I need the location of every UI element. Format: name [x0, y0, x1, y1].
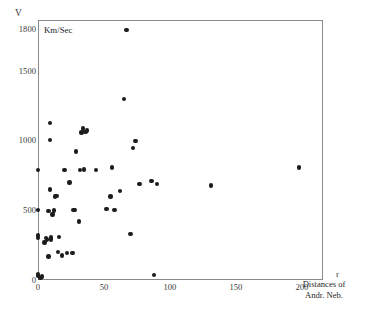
- data-point: [48, 138, 52, 142]
- x-axis-caption-line1: Distances of: [303, 279, 346, 289]
- x-tick-label: 0: [36, 283, 40, 292]
- data-point: [131, 146, 135, 150]
- data-point: [74, 149, 78, 153]
- data-point: [40, 274, 44, 278]
- data-point: [94, 168, 98, 172]
- data-point: [133, 139, 137, 143]
- data-point: [52, 208, 56, 212]
- data-point: [118, 189, 122, 193]
- data-point: [65, 251, 69, 255]
- data-point: [77, 219, 81, 223]
- scatter-chart-figure: V Km/Sec 0500100015001800 050100150200 r…: [0, 0, 365, 309]
- data-point: [73, 208, 77, 212]
- data-point: [209, 183, 213, 187]
- data-point: [36, 168, 40, 172]
- x-axis-caption-line2: Andr. Neb.: [283, 290, 365, 301]
- data-point: [85, 128, 89, 132]
- data-point: [48, 121, 52, 125]
- data-point: [149, 179, 153, 183]
- data-point: [128, 232, 132, 236]
- data-point: [36, 233, 40, 237]
- x-axis-caption: Distances of Andr. Neb.: [283, 279, 365, 300]
- x-tick-label: 150: [229, 283, 242, 292]
- data-point: [124, 28, 128, 32]
- x-axis-symbol-label: r: [336, 269, 339, 279]
- data-point: [54, 194, 58, 198]
- data-point: [36, 208, 40, 212]
- data-point: [48, 187, 52, 191]
- data-point: [108, 194, 112, 198]
- data-point: [50, 212, 54, 216]
- x-tick-label: 100: [163, 283, 176, 292]
- data-point: [60, 253, 64, 257]
- data-point: [62, 168, 66, 172]
- data-points-layer: [38, 20, 323, 280]
- data-point: [297, 165, 301, 169]
- data-point: [46, 254, 50, 258]
- data-point: [137, 182, 141, 186]
- data-point: [122, 97, 126, 101]
- data-point: [152, 273, 156, 277]
- x-tick-label: 50: [100, 283, 109, 292]
- data-point: [155, 182, 159, 186]
- data-point: [49, 237, 53, 241]
- data-point: [82, 167, 86, 171]
- data-point: [67, 180, 71, 184]
- data-point: [70, 251, 74, 255]
- data-point: [57, 235, 61, 239]
- data-point: [112, 208, 116, 212]
- data-point: [110, 165, 114, 169]
- data-point: [104, 207, 108, 211]
